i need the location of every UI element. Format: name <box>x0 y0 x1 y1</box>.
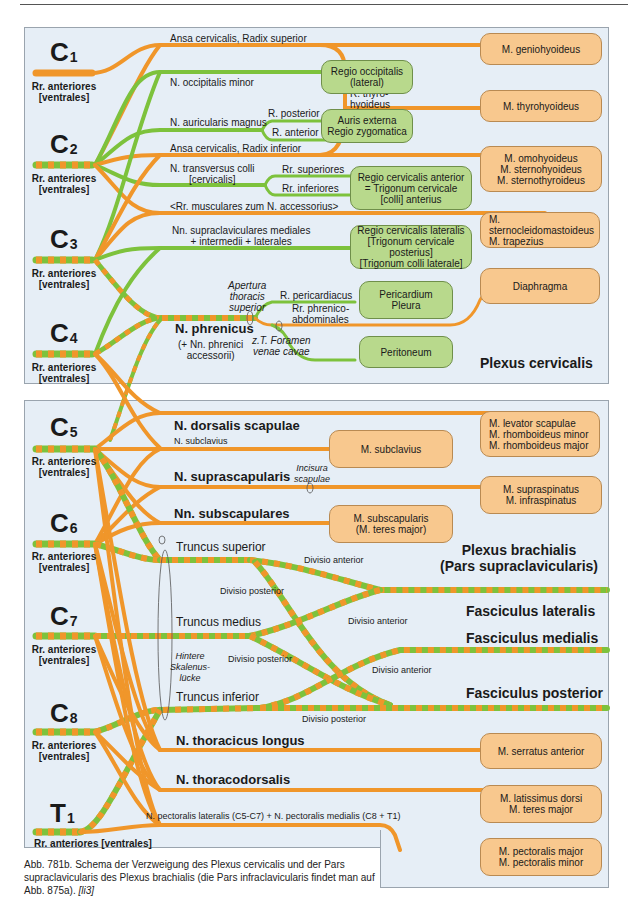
label-divisio-anterior-1: Divisio anterior <box>304 555 364 566</box>
label-r-pericardiacus: R. pericardiacus <box>280 290 352 301</box>
muscle-box-subscapularis: M. subscapularis (M. teres major) <box>329 505 453 543</box>
region-box-peritoneum: Peritoneum <box>359 336 453 368</box>
label-apertura-thoracis: Apertura thoracis superior <box>228 280 266 313</box>
root-c8: C8 <box>50 700 78 730</box>
label-truncus-inferior: Truncus inferior <box>176 692 259 703</box>
root-c6-label: Rr. anteriores [ventrales] <box>24 551 104 573</box>
root-c5: C5 <box>50 414 78 444</box>
figure-caption: Abb. 781b. Schema der Verzweigung des Pl… <box>24 858 384 897</box>
root-c1: C1 <box>50 39 78 69</box>
root-c4-label: Rr. anteriores [ventrales] <box>24 362 104 384</box>
region-box-trigonum-anterius: Regio cervicalis anterior = Trigonum cer… <box>350 166 472 210</box>
label-truncus-superior: Truncus superior <box>176 542 266 553</box>
label-hintere-skalenusluecke: Hintere Skalenus- lücke <box>170 651 210 684</box>
label-n-dorsalis-scapulae: N. dorsalis scapulae <box>174 420 300 431</box>
root-c3-label: Rr. anteriores [ventrales] <box>24 268 104 290</box>
label-fasciculus-medialis: Fasciculus medialis <box>466 630 598 646</box>
muscle-box-subclavius: M. subclavius <box>329 430 453 468</box>
muscle-box-serratus-anterior: M. serratus anterior <box>480 733 602 769</box>
region-box-trigonum-posterius: Regio cervicalis lateralis [Trigonum cer… <box>350 225 472 269</box>
label-divisio-posterior-3: Divisio posterior <box>302 714 366 725</box>
label-n-occipitalis-minor: N. occipitalis minor <box>170 77 254 88</box>
label-fasciculus-lateralis: Fasciculus lateralis <box>466 603 595 619</box>
label-nn-phrenici-accessorii: (+ Nn. phrenici accessorii) <box>178 339 243 361</box>
root-c1-label: Rr. anteriores [ventrales] <box>24 81 104 103</box>
root-t1: T1 <box>50 800 75 830</box>
label-r-anterior: R. anterior <box>272 127 319 138</box>
muscle-box-latissimus-dorsi: M. latissimus dorsi M. teres major <box>480 785 602 823</box>
label-truncus-medius: Truncus medius <box>176 617 261 628</box>
label-n-thoracodorsalis: N. thoracodorsalis <box>176 774 290 785</box>
root-c4: C4 <box>50 320 78 350</box>
root-c3: C3 <box>50 226 78 256</box>
muscle-box-sternocleidomastoideus: M. sternocleidomastoideus M. trapezius <box>480 212 600 248</box>
label-rr-superiores: Rr. superiores <box>282 164 344 175</box>
label-n-auricularis-magnus: N. auricularis magnus <box>170 117 267 128</box>
title-plexus-brachialis: Plexus brachialis (Pars supraclaviculari… <box>440 542 598 574</box>
label-n-thoracicus-longus: N. thoracicus longus <box>176 735 305 746</box>
label-n-phrenicus: N. phrenicus <box>175 323 254 334</box>
label-divisio-anterior-3: Divisio anterior <box>372 665 432 676</box>
region-box-pericardium: Pericardium Pleura <box>359 281 453 319</box>
region-box-auris-externa: Auris externa Regio zygomatica <box>321 109 413 143</box>
label-incisura-scapulae: Incisura scapulae <box>294 463 330 485</box>
muscle-box-levator-rhomboideus: M. levator scapulae M. rhomboideus minor… <box>480 411 600 457</box>
label-divisio-posterior-1: Divisio posterior <box>220 586 284 597</box>
root-c2-label: Rr. anteriores [ventrales] <box>24 173 104 195</box>
root-c2: C2 <box>50 131 78 161</box>
muscle-box-supraspinatus: M. supraspinatus M. infraspinatus <box>480 476 602 514</box>
label-n-transversus-colli: N. transversus colli [cervicalis] <box>170 163 254 185</box>
root-c7-label: Rr. anteriores [ventrales] <box>24 644 104 666</box>
label-rr-musculares: <Rr. musculares zum N. accessorius> <box>170 201 338 212</box>
label-r-posterior: R. posterior <box>268 108 320 119</box>
title-plexus-cervicalis: Plexus cervicalis <box>480 355 593 371</box>
label-foramen-venae-cavae: z.T. Foramen venae cavae <box>252 335 311 357</box>
label-rr-inferiores: Rr. inferiores <box>282 183 339 194</box>
muscle-box-infrahyoid: M. omohyoideus M. sternohyoideus M. ster… <box>480 146 602 192</box>
muscle-box-geniohyoideus: M. geniohyoideus <box>480 33 602 65</box>
muscle-box-thyrohyoideus: M. thyrohyoideus <box>480 90 602 122</box>
root-c8-label: Rr. anteriores [ventrales] <box>24 740 104 762</box>
label-divisio-anterior-2: Divisio anterior <box>348 616 408 627</box>
label-nn-supraclaviculares: Nn. supraclaviculares mediales + interme… <box>172 225 310 247</box>
label-n-suprascapularis: N. suprascapularis <box>174 471 290 482</box>
label-nn-subscapulares: Nn. subscapulares <box>174 508 290 519</box>
label-fasciculus-posterior: Fasciculus posterior <box>466 685 603 701</box>
root-t1-label: Rr. anteriores [ventrales] <box>34 838 154 849</box>
root-c6: C6 <box>50 510 78 540</box>
caption-reference: [li3] <box>79 885 95 896</box>
region-box-occipitalis: Regio occipitalis (lateral) <box>321 60 413 94</box>
label-ansa-radix-superior: Ansa cervicalis, Radix superior <box>170 33 307 44</box>
root-c7: C7 <box>50 603 78 633</box>
root-c5-label: Rr. anteriores [ventrales] <box>24 456 104 478</box>
label-divisio-posterior-2: Divisio posterior <box>228 654 292 665</box>
label-rr-phrenicoabdominales: Rr. phrenico- abdominales <box>292 303 349 325</box>
muscle-box-pectoralis: M. pectoralis major M. pectoralis minor <box>480 838 602 876</box>
label-n-pectoralis: N. pectoralis lateralis (C5-C7) + N. pec… <box>146 811 400 822</box>
muscle-box-diaphragma: Diaphragma <box>480 268 600 304</box>
label-ansa-radix-inferior: Ansa cervicalis, Radix inferior <box>170 143 301 154</box>
label-n-subclavius: N. subclavius <box>174 436 228 447</box>
